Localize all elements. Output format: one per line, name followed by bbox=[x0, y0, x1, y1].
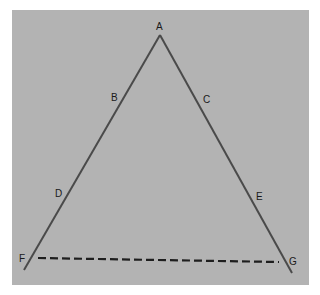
line-A-G bbox=[160, 35, 292, 273]
label-G: G bbox=[289, 257, 297, 267]
label-C: C bbox=[203, 95, 210, 105]
label-E: E bbox=[256, 192, 263, 202]
label-D: D bbox=[55, 189, 62, 199]
triangle-diagram bbox=[0, 0, 320, 295]
label-B: B bbox=[111, 93, 118, 103]
line-A-F bbox=[24, 35, 160, 270]
label-F: F bbox=[19, 254, 25, 264]
line-F-G-dashed bbox=[38, 258, 279, 262]
label-A: A bbox=[156, 22, 163, 32]
